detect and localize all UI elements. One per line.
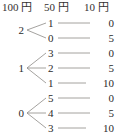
- node-10yen-count-r1: 5: [96, 33, 114, 44]
- node-50yen-count-r3: 2: [48, 63, 60, 74]
- node-50yen-count-r1: 0: [48, 33, 60, 44]
- node-10yen-count-r0: 0: [96, 18, 114, 29]
- node-100yen-count-g2: 0: [12, 108, 24, 119]
- node-100yen-count-g0: 2: [12, 25, 24, 36]
- branch-line-g2-b2: [27, 113, 46, 128]
- node-50yen-count-r7: 3: [48, 123, 60, 134]
- column-header-100-yen: 100 円: [2, 1, 32, 14]
- branch-line-g1-b2: [27, 68, 46, 83]
- node-100yen-count-g1: 1: [12, 63, 24, 74]
- branch-line-g0-b0: [27, 23, 46, 30]
- coin-combination-tree-diagram: 100 円 50 円 10 円 2 1 0 1 0 3 2 1 5 4 3 0 …: [0, 0, 119, 135]
- column-header-50-yen: 50 円: [44, 1, 69, 14]
- node-10yen-count-r2: 0: [96, 48, 114, 59]
- node-10yen-count-r6: 5: [96, 108, 114, 119]
- node-50yen-count-r0: 1: [48, 18, 60, 29]
- node-10yen-count-r7: 10: [96, 123, 114, 134]
- node-10yen-count-r5: 0: [96, 93, 114, 104]
- branch-line-g2-b0: [27, 98, 46, 113]
- node-10yen-count-r3: 5: [96, 63, 114, 74]
- node-50yen-count-r4: 1: [48, 78, 60, 89]
- node-50yen-count-r6: 4: [48, 108, 60, 119]
- node-50yen-count-r5: 5: [48, 93, 60, 104]
- branch-line-g0-b1: [27, 30, 46, 38]
- node-50yen-count-r2: 3: [48, 48, 60, 59]
- branch-line-g1-b0: [27, 53, 46, 68]
- column-header-10-yen: 10 円: [84, 1, 109, 14]
- node-10yen-count-r4: 10: [96, 78, 114, 89]
